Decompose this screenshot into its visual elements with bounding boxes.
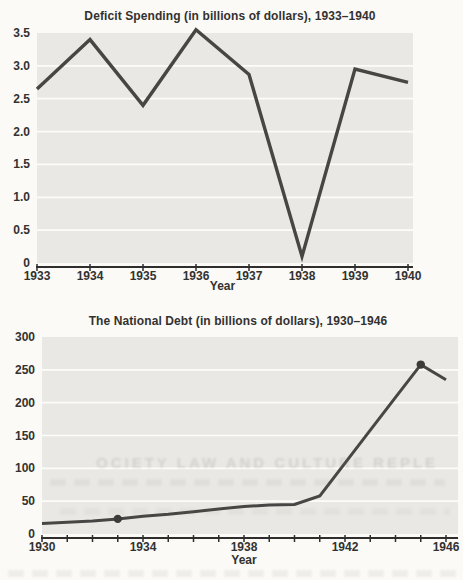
data-point-marker xyxy=(114,515,122,523)
y-tick-label: 150 xyxy=(15,429,35,443)
y-tick-label: 50 xyxy=(22,494,36,508)
x-tick-label: 1946 xyxy=(433,540,460,554)
plot-area xyxy=(37,33,413,263)
y-tick-label: 3.5 xyxy=(13,26,30,40)
debt-chart-title: The National Debt (in billions of dollar… xyxy=(14,314,462,328)
y-tick-label: 3.0 xyxy=(13,59,30,73)
x-tick-label: 1942 xyxy=(332,540,359,554)
y-tick-label: 2.0 xyxy=(13,125,30,139)
x-tick-label: 1934 xyxy=(130,540,157,554)
data-point-marker xyxy=(417,360,425,368)
line-chart-1: 30025020015010050019301934193819421946 xyxy=(15,330,460,554)
line-chart-0: 3.53.02.52.01.51.00.50193319341935193619… xyxy=(13,26,421,283)
y-tick-label: 1.5 xyxy=(13,157,30,171)
y-tick-label: 250 xyxy=(15,363,35,377)
y-tick-label: 100 xyxy=(15,461,35,475)
x-tick-label: 1938 xyxy=(231,540,258,554)
deficit-chart-xaxis-title: Year xyxy=(0,279,445,293)
y-tick-label: 1.0 xyxy=(13,190,30,204)
debt-chart-xaxis-title: Year xyxy=(24,553,463,567)
y-tick-label: 200 xyxy=(15,396,35,410)
y-tick-label: 0.5 xyxy=(13,223,30,237)
x-tick-label: 1930 xyxy=(29,540,56,554)
y-tick-label: 300 xyxy=(15,330,35,344)
scanned-figure-page: Deficit Spending (in billions of dollars… xyxy=(0,0,463,580)
y-tick-label: 2.5 xyxy=(13,92,30,106)
